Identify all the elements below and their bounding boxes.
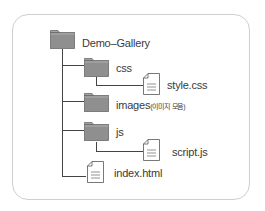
branch-index [62, 176, 86, 177]
images-name: images [116, 99, 150, 111]
file-icon [143, 139, 160, 161]
branch-images [62, 101, 84, 102]
index-html-label: index.html [114, 167, 162, 179]
folder-icon [84, 122, 109, 141]
folder-icon [84, 58, 109, 77]
images-folder-label: images(이미지 모음) [116, 99, 185, 113]
file-icon [87, 161, 104, 183]
css-folder-label: css [116, 62, 132, 74]
trunk-line [62, 49, 63, 177]
js-folder-label: js [116, 126, 124, 138]
script-js-label: script.js [172, 146, 207, 158]
folder-icon [50, 30, 75, 49]
style-css-label: style.css [167, 79, 207, 91]
css-sub-horizontal [96, 85, 143, 86]
images-note: (이미지 모음) [150, 103, 185, 110]
branch-css [62, 65, 84, 66]
branch-js [62, 130, 84, 131]
folder-icon [84, 93, 109, 112]
root-folder-label: Demo–Gallery [82, 37, 150, 49]
js-sub-horizontal [96, 151, 143, 152]
file-icon [143, 73, 160, 95]
